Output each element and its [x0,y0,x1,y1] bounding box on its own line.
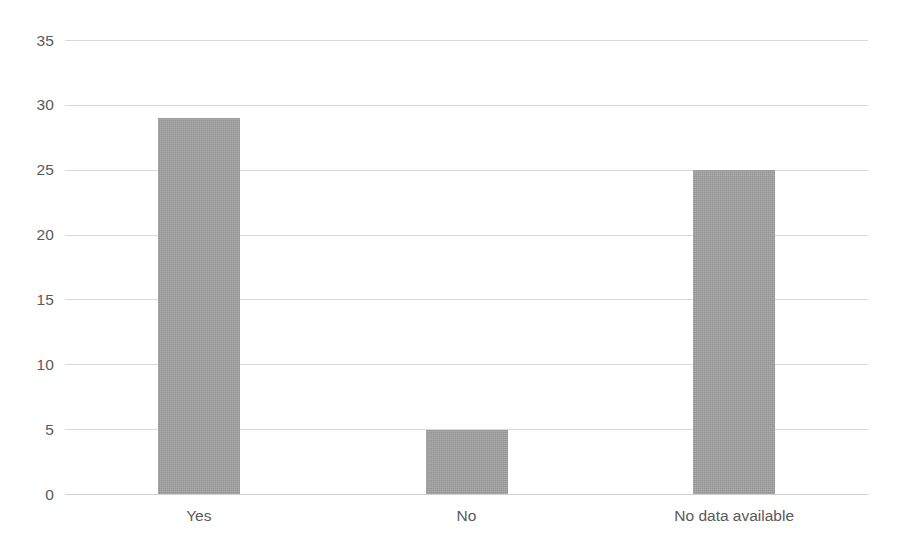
x-category-label: No [333,508,601,524]
x-category-label: No data available [600,508,868,524]
bar-chart: 05101520253035 YesNoNo data available [0,0,899,547]
x-axis-category-labels: YesNoNo data available [0,0,899,547]
x-category-label: Yes [65,508,333,524]
